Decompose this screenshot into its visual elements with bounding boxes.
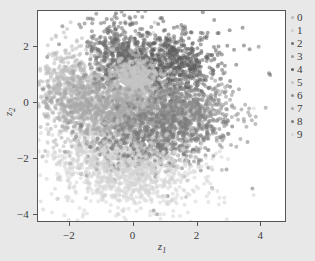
- legend-item-6[interactable]: 6: [291, 89, 303, 102]
- legend-item-1[interactable]: 1: [291, 24, 303, 37]
- x-tick-mark: [260, 222, 261, 226]
- y-tick-mark: [33, 214, 37, 215]
- y-tick-mark: [33, 46, 37, 47]
- x-tick-label: 0: [130, 229, 136, 241]
- legend-marker-icon: [291, 81, 294, 84]
- legend-marker-icon: [291, 68, 294, 71]
- legend-item-0[interactable]: 0: [291, 11, 303, 24]
- legend-label: 5: [297, 77, 303, 88]
- y-axis-label: z2: [2, 108, 17, 116]
- y-axis-label-subscript: 2: [8, 108, 17, 112]
- y-tick-label: −2: [10, 152, 29, 164]
- x-tick-mark: [197, 222, 198, 226]
- legend-marker-icon: [291, 107, 294, 110]
- legend-label: 3: [297, 51, 303, 62]
- legend-item-9[interactable]: 9: [291, 128, 303, 141]
- legend-item-3[interactable]: 3: [291, 50, 303, 63]
- legend-marker-icon: [291, 120, 294, 123]
- y-tick-label: −4: [10, 208, 29, 220]
- legend-label: 9: [297, 129, 303, 140]
- y-tick-mark: [33, 102, 37, 103]
- x-tick-mark: [69, 222, 70, 226]
- y-tick-label: 0: [10, 96, 29, 108]
- legend-marker-icon: [291, 94, 294, 97]
- legend-marker-icon: [291, 55, 294, 58]
- legend-item-2[interactable]: 2: [291, 37, 303, 50]
- legend-marker-icon: [291, 16, 294, 19]
- legend: 0123456789: [291, 11, 303, 141]
- legend-label: 1: [297, 25, 303, 36]
- y-tick-label: 2: [10, 40, 29, 52]
- legend-item-8[interactable]: 8: [291, 115, 303, 128]
- y-tick-mark: [33, 158, 37, 159]
- legend-marker-icon: [291, 42, 294, 45]
- legend-label: 0: [297, 12, 303, 23]
- x-tick-label: −2: [63, 229, 75, 241]
- x-axis-label: z1: [158, 240, 166, 255]
- legend-label: 2: [297, 38, 303, 49]
- plot-area: [37, 10, 286, 222]
- scatter-points-canvas: [38, 11, 286, 222]
- legend-label: 7: [297, 103, 303, 114]
- y-axis-label-symbol: z: [2, 112, 14, 116]
- legend-item-5[interactable]: 5: [291, 76, 303, 89]
- scatter-plot-figure: −202420−2−4 z1 z2 0123456789: [0, 0, 315, 261]
- legend-marker-icon: [291, 29, 294, 32]
- legend-label: 6: [297, 90, 303, 101]
- x-tick-mark: [133, 222, 134, 226]
- x-axis-label-subscript: 1: [162, 246, 166, 255]
- x-tick-label: 4: [258, 229, 264, 241]
- legend-label: 4: [297, 64, 303, 75]
- legend-item-7[interactable]: 7: [291, 102, 303, 115]
- legend-marker-icon: [291, 133, 294, 136]
- legend-label: 8: [297, 116, 303, 127]
- x-tick-label: 2: [194, 229, 200, 241]
- legend-item-4[interactable]: 4: [291, 63, 303, 76]
